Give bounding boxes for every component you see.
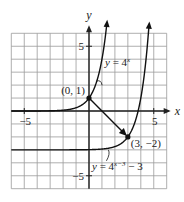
y-tick-label: −5	[72, 170, 84, 182]
curve-label-2: y = 4x−3 − 3	[91, 160, 143, 172]
y-axis-arrow-icon	[86, 25, 92, 32]
curve-label-1: y = 4x	[104, 56, 131, 68]
curve-arrow-icon	[146, 21, 152, 29]
labels: yx−555−5(0, 1)(3, −2)y = 4xy = 4x−3 − 3	[19, 8, 180, 182]
point-label-0-1: (0, 1)	[61, 84, 85, 97]
curve-arrow-icon	[104, 20, 110, 28]
point-label-3-neg2: (3, −2)	[131, 137, 161, 150]
x-tick-label: 5	[152, 115, 158, 127]
x-axis-arrow-icon	[164, 108, 171, 114]
x-tick-label: −5	[19, 115, 31, 127]
y-axis-label: y	[85, 8, 92, 22]
y-tick-label: 5	[79, 40, 85, 52]
function-graph: yx−555−5(0, 1)(3, −2)y = 4xy = 4x−3 − 3	[0, 0, 184, 202]
x-axis-label: x	[174, 104, 181, 118]
translation-arrow	[89, 98, 125, 134]
